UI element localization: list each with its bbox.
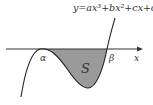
beta-label: β bbox=[108, 53, 114, 63]
region-s-label: S bbox=[81, 61, 90, 76]
x-axis-label: x bbox=[134, 53, 139, 63]
cubic-area-diagram: y=ax³+bx²+cx+d α β x S bbox=[0, 0, 153, 105]
x-axis-arrow-icon bbox=[137, 47, 143, 52]
alpha-label: α bbox=[40, 53, 46, 63]
shaded-region-s bbox=[42, 49, 107, 88]
equation-label: y=ax³+bx²+cx+d bbox=[72, 2, 153, 13]
